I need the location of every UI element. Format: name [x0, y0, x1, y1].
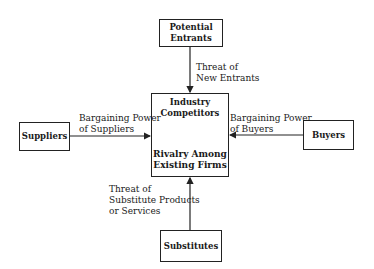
bargaining-buyers-label: Bargaining Power of Buyers: [230, 113, 312, 135]
bargaining-suppliers-label: Bargaining Power of Suppliers: [79, 113, 161, 135]
threat-new-entrants-1: Threat of: [196, 62, 259, 73]
potential-entrants-box: Potential Entrants: [159, 19, 223, 47]
suppliers-box: Suppliers: [19, 122, 70, 151]
bargaining-buyers-1: Bargaining Power: [230, 113, 312, 124]
rivalry-label-1: Rivalry Among: [152, 149, 228, 160]
potential-entrants-label-1: Potential: [169, 22, 212, 33]
buyers-label: Buyers: [312, 130, 345, 141]
threat-substitutes-2: Substitute Products: [109, 195, 200, 206]
threat-new-entrants-label: Threat of New Entrants: [196, 62, 259, 84]
competitors-title-2: Competitors: [152, 108, 228, 119]
threat-new-entrants-2: New Entrants: [196, 73, 259, 84]
bargaining-suppliers-1: Bargaining Power: [79, 113, 161, 124]
competitors-title: Industry Competitors: [152, 97, 228, 119]
industry-competitors-box: Industry Competitors Rivalry Among Exist…: [151, 93, 229, 177]
threat-substitutes-label: Threat of Substitute Products or Service…: [109, 184, 200, 217]
rivalry-label: Rivalry Among Existing Firms: [152, 149, 228, 171]
bargaining-suppliers-2: of Suppliers: [79, 124, 161, 135]
substitutes-box: Substitutes: [160, 230, 222, 262]
bargaining-buyers-2: of Buyers: [230, 124, 312, 135]
threat-substitutes-1: Threat of: [109, 184, 200, 195]
potential-entrants-label-2: Entrants: [169, 33, 212, 44]
substitutes-label: Substitutes: [164, 241, 218, 252]
threat-substitutes-3: or Services: [109, 206, 200, 217]
suppliers-label: Suppliers: [22, 131, 67, 142]
rivalry-label-2: Existing Firms: [152, 160, 228, 171]
competitors-title-1: Industry: [152, 97, 228, 108]
